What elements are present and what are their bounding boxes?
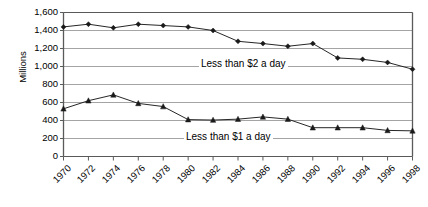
series-line-2 [64,95,413,131]
y-tick-label: 200 [24,133,58,143]
data-point-marker [111,92,116,97]
data-point-marker [360,57,365,62]
data-point-marker [211,28,216,33]
data-point-marker [385,60,390,65]
data-point-marker [136,22,141,27]
y-tick-label: 1,400 [24,25,58,35]
data-point-marker [86,22,91,27]
data-point-marker [285,44,290,49]
series-label-2-dollars: Less than $2 a day [199,58,288,69]
data-series [61,22,415,133]
y-tick-label: 800 [24,79,58,89]
series-label-1-dollar: Less than $1 a day [184,131,273,142]
y-tick-label: 0 [24,151,58,161]
y-tick-label: 600 [24,97,58,107]
data-point-marker [335,55,340,60]
data-point-marker [186,24,191,29]
y-tick-label: 400 [24,115,58,125]
data-point-marker [260,41,265,46]
y-tick-label: 1,000 [24,61,58,71]
data-point-marker [111,25,116,30]
data-point-marker [410,67,415,72]
data-point-marker [61,24,66,29]
data-point-marker [161,23,166,28]
y-tick-label: 1,600 [24,7,58,17]
y-tick-label: 1,200 [24,43,58,53]
data-point-marker [236,39,241,44]
data-point-marker [310,41,315,46]
poverty-line-chart: Millions 02004006008001,0001,2001,4001,6… [0,0,428,207]
